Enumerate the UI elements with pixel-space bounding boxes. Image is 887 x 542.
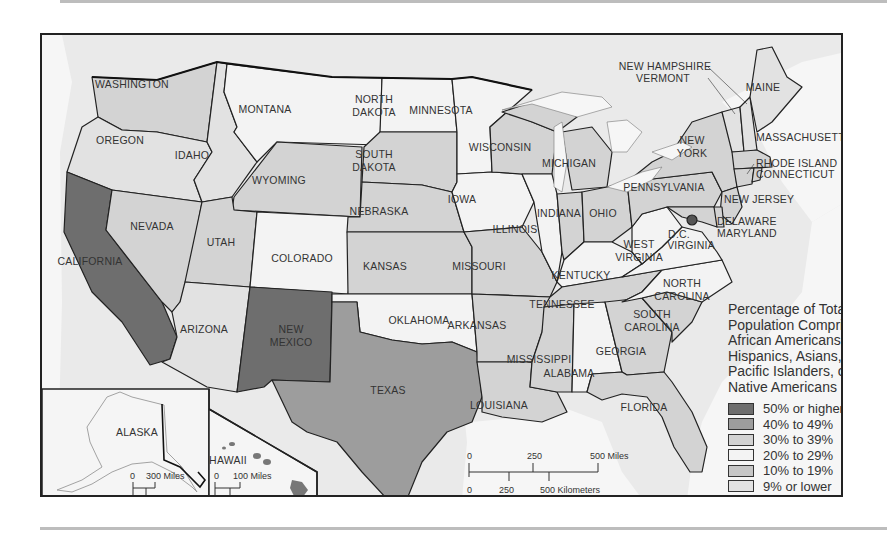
legend-swatch-40-49 (728, 418, 754, 430)
scale-hawaii-miles: 100 Miles (233, 471, 272, 481)
label-new-york-1: NEW (679, 134, 704, 146)
top-rule (60, 0, 887, 3)
hawaii-island-maui (263, 459, 271, 465)
label-nebraska: NEBRASKA (350, 205, 409, 217)
legend-item: 10% to 19% (728, 463, 843, 479)
label-oregon: OREGON (96, 134, 144, 146)
legend-swatch-9-or-lower (728, 480, 754, 492)
scale-main-miles-500: 500 Miles (590, 451, 629, 461)
label-south-carolina-2: CAROLINA (624, 321, 679, 333)
label-missouri: MISSOURI (452, 260, 506, 272)
label-delaware: DELAWARE (717, 215, 777, 227)
legend-item: 30% to 39% (728, 432, 843, 448)
label-west-virginia-1: WEST (623, 238, 655, 250)
legend-swatch-20-29 (728, 449, 754, 461)
legend-title-line: African Americans, (728, 333, 843, 349)
label-texas: TEXAS (370, 384, 405, 396)
label-alabama: ALABAMA (543, 367, 594, 379)
legend-item: 9% or lower (728, 479, 843, 495)
label-florida: FLORIDA (621, 401, 668, 413)
hawaii-island-oahu (229, 442, 235, 446)
scale-main-km-500: 500 Kilometers (540, 485, 601, 495)
label-connecticut: CONNECTICUT (756, 168, 835, 180)
label-north-carolina-2: CAROLINA (654, 290, 709, 302)
legend-title-line: Population Comprising (728, 318, 843, 334)
label-michigan: MICHIGAN (542, 157, 596, 169)
label-kansas: KANSAS (363, 260, 407, 272)
label-arkansas: ARKANSAS (448, 319, 507, 331)
legend-label: 40% to 49% (763, 417, 833, 432)
label-mississippi: MISSISSIPPI (507, 353, 572, 365)
label-idaho: IDAHO (175, 149, 209, 161)
legend-label: 20% to 29% (763, 448, 833, 463)
label-california: CALIFORNIA (57, 255, 122, 267)
hawaii-island-molokai (253, 453, 261, 459)
label-new-york-2: YORK (677, 147, 708, 159)
label-iowa: IOWA (448, 193, 476, 205)
label-wyoming: WYOMING (252, 174, 306, 186)
legend-swatch-10-19 (728, 465, 754, 477)
label-hawaii: HAWAII (209, 454, 247, 466)
label-alaska: ALASKA (116, 426, 158, 438)
label-pennsylvania: PENNSYLVANIA (623, 181, 704, 193)
label-indiana: INDIANA (537, 207, 581, 219)
label-north-dakota-2: DAKOTA (352, 106, 396, 118)
label-minnesota: MINNESOTA (409, 104, 472, 116)
us-map: WASHINGTON OREGON CALIFORNIA IDAHO NEVAD… (42, 35, 843, 497)
label-new-mexico-1: NEW (278, 323, 303, 335)
legend-item: 50% or higher (728, 401, 843, 417)
legend-label: 9% or lower (763, 479, 832, 494)
legend-label: 30% to 39% (763, 432, 833, 447)
label-north-carolina-1: NORTH (663, 277, 701, 289)
scale-hawaii-miles-0: 0 (214, 471, 219, 481)
label-nevada: NEVADA (130, 220, 174, 232)
label-south-dakota-1: SOUTH (355, 148, 393, 160)
label-maine: MAINE (746, 81, 780, 93)
label-tennessee: TENNESSEE (529, 298, 594, 310)
scale-main-miles-250: 250 (527, 451, 542, 461)
legend-swatch-50-plus (728, 403, 754, 415)
legend-item: 40% to 49% (728, 417, 843, 433)
label-dc: D.C. (668, 228, 690, 240)
legend-swatch-30-39 (728, 434, 754, 446)
label-north-dakota-1: NORTH (355, 93, 393, 105)
label-south-dakota-2: DAKOTA (352, 161, 396, 173)
label-illinois: ILLINOIS (493, 223, 538, 235)
label-montana: MONTANA (238, 103, 291, 115)
label-ohio: OHIO (589, 207, 617, 219)
label-georgia: GEORGIA (596, 345, 646, 357)
label-louisiana: LOUISIANA (470, 399, 528, 411)
legend: Percentage of Total Population Comprisin… (728, 302, 843, 494)
scale-alaska-miles-0: 0 (130, 471, 135, 481)
label-utah: UTAH (207, 236, 236, 248)
label-virginia: VIRGINIA (667, 239, 715, 251)
legend-title-line: Pacific Islanders, or (728, 364, 843, 380)
label-new-hampshire: NEW HAMPSHIRE (619, 60, 711, 72)
legend-title-line: Native Americans (728, 380, 843, 396)
legend-item: 20% to 29% (728, 448, 843, 464)
label-washington: WASHINGTON (95, 78, 169, 90)
label-south-carolina-1: SOUTH (633, 308, 671, 320)
state-connecticut[interactable] (734, 168, 754, 187)
label-new-jersey: NEW JERSEY (724, 193, 794, 205)
legend-title-line: Percentage of Total (728, 302, 843, 318)
scale-main-km-0: 0 (467, 485, 472, 495)
label-colorado: COLORADO (271, 252, 333, 264)
label-vermont: VERMONT (636, 72, 690, 84)
hawaii-island-kauai (222, 447, 226, 450)
label-arizona: ARIZONA (180, 323, 228, 335)
legend-title-line: Hispanics, Asians, (728, 349, 843, 365)
legend-label: 50% or higher (763, 401, 843, 416)
legend-label: 10% to 19% (763, 463, 833, 478)
state-dc[interactable] (687, 215, 697, 225)
label-new-mexico-2: MEXICO (270, 336, 313, 348)
scale-main-miles-0: 0 (467, 451, 472, 461)
label-oklahoma: OKLAHOMA (388, 314, 449, 326)
map-frame: WASHINGTON OREGON CALIFORNIA IDAHO NEVAD… (40, 33, 843, 497)
legend-title: Percentage of Total Population Comprisin… (728, 302, 843, 395)
bottom-rule (40, 527, 887, 530)
label-kentucky: KENTUCKY (552, 269, 611, 281)
scale-alaska-miles: 300 Miles (146, 471, 185, 481)
label-massachusetts: MASSACHUSETTS (756, 131, 843, 143)
label-maryland: MARYLAND (717, 227, 777, 239)
